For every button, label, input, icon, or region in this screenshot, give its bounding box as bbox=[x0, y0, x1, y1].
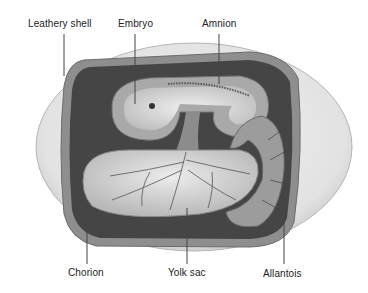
label-allantois: Allantois bbox=[263, 268, 302, 279]
egg-diagram bbox=[0, 0, 368, 293]
label-leathery-shell: Leathery shell bbox=[28, 18, 92, 29]
label-embryo: Embryo bbox=[118, 18, 153, 29]
label-yolk-sac: Yolk sac bbox=[168, 267, 206, 278]
label-chorion: Chorion bbox=[68, 267, 104, 278]
label-amnion: Amnion bbox=[202, 18, 237, 29]
